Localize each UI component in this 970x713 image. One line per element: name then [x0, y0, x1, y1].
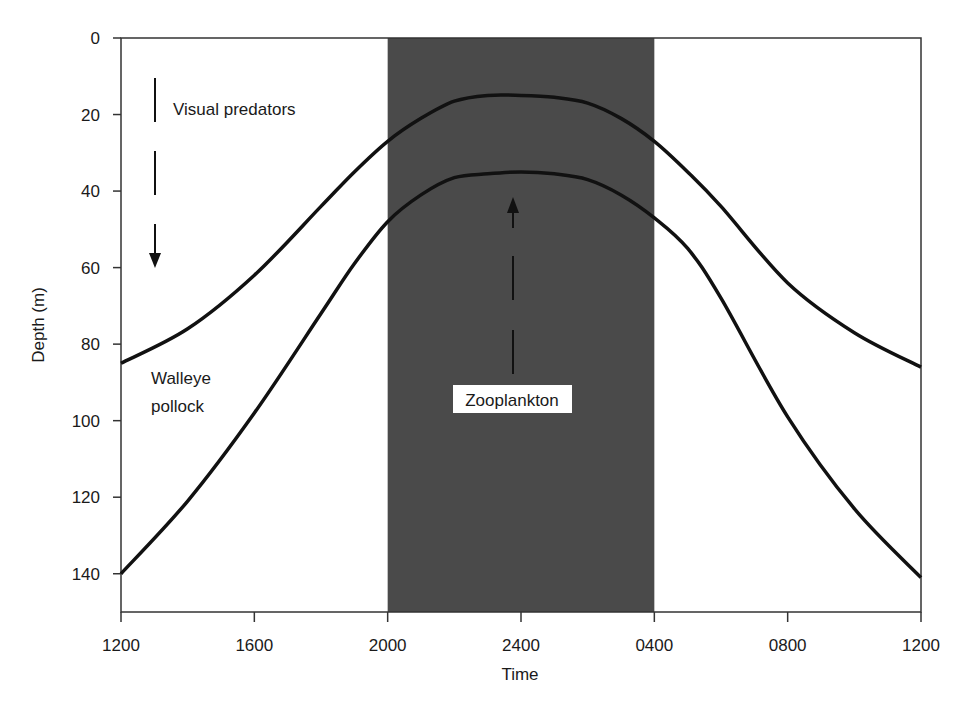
x-tick-label: 0400: [635, 636, 673, 655]
y-tick-label: 100: [72, 412, 100, 431]
down-arrowhead-icon: [149, 253, 161, 268]
walleye-label: Walleye: [151, 369, 211, 388]
x-tick-label: 1600: [235, 636, 273, 655]
x-axis: 1200160020002400040008001200: [102, 612, 940, 655]
zooplankton-label: Zooplankton: [465, 391, 559, 410]
x-tick-label: 2000: [369, 636, 407, 655]
y-tick-label: 0: [91, 29, 100, 48]
y-axis-title: Depth (m): [29, 287, 48, 363]
x-tick-label: 1200: [102, 636, 140, 655]
y-axis: 020406080100120140: [72, 29, 121, 584]
night-shaded-region: [388, 38, 655, 612]
y-tick-label: 60: [81, 259, 100, 278]
pollock-label: pollock: [151, 397, 204, 416]
y-tick-label: 140: [72, 565, 100, 584]
y-tick-label: 20: [81, 106, 100, 125]
x-tick-label: 0800: [769, 636, 807, 655]
x-tick-label: 1200: [902, 636, 940, 655]
y-tick-label: 80: [81, 335, 100, 354]
visual-predators-label: Visual predators: [173, 100, 296, 119]
y-tick-label: 40: [81, 182, 100, 201]
y-tick-label: 120: [72, 488, 100, 507]
x-tick-label: 2400: [502, 636, 540, 655]
depth-time-chart: 020406080100120140 120016002000240004000…: [0, 0, 970, 713]
x-axis-title: Time: [501, 665, 538, 684]
